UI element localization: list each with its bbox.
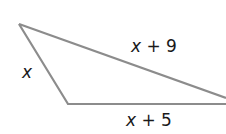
- top-side-constant: + 9: [141, 36, 177, 56]
- top-side-variable: x: [131, 36, 141, 56]
- top-side-label: x + 9: [131, 38, 177, 55]
- bottom-side-variable: x: [126, 110, 136, 130]
- left-side-variable: x: [22, 62, 32, 82]
- bottom-side-label: x + 5: [126, 112, 172, 129]
- triangle-top-side: [19, 24, 226, 98]
- bottom-side-constant: + 5: [136, 110, 172, 130]
- left-side-label: x: [22, 64, 32, 81]
- triangle-figure: [0, 0, 226, 134]
